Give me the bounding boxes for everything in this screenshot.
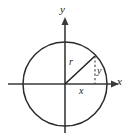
horizontal-component-label: x [79, 86, 83, 96]
diagram-canvas [0, 0, 129, 138]
y-axis-label: y [60, 4, 65, 15]
x-axis-label: x [117, 76, 122, 87]
circle-diagram-figure: y x r y x [0, 0, 129, 138]
radius-label: r [69, 57, 73, 67]
vertical-component-label: y [97, 66, 101, 76]
arrow-up-icon [62, 17, 69, 25]
